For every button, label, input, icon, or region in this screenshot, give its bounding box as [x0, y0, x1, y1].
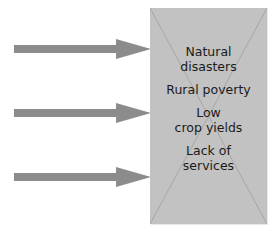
label-rural-poverty: Rural poverty [150, 82, 267, 97]
box-labels: Natural disasters Rural poverty Low crop… [150, 44, 267, 181]
arrow-icon [14, 103, 151, 123]
label-line: Natural [150, 44, 267, 59]
label-line: disasters [150, 59, 267, 74]
label-line: Lack of [150, 143, 267, 158]
label-lack-of-services: Lack of services [150, 143, 267, 173]
label-line: services [150, 158, 267, 173]
label-line: Rural poverty [150, 82, 267, 97]
label-natural-disasters: Natural disasters [150, 44, 267, 74]
arrow-icon [14, 167, 151, 187]
label-line: Low [150, 105, 267, 120]
label-line: crop yields [150, 120, 267, 135]
label-low-crop-yields: Low crop yields [150, 105, 267, 135]
arrow-icon [14, 39, 151, 59]
